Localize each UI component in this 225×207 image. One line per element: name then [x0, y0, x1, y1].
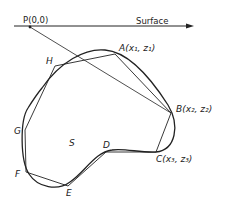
approx-polygon [25, 54, 171, 186]
vertex-E-label: E [66, 189, 72, 198]
body-outline [22, 50, 175, 187]
vertex-C-label: C(x₃, z₃) [156, 155, 192, 164]
vertex-H-label: H [46, 57, 53, 66]
vertex-G-label: G [14, 127, 21, 136]
surface-arrowhead-icon [186, 24, 194, 29]
surface-label: Surface [136, 17, 168, 26]
vertex-F-label: F [15, 170, 20, 179]
vertex-D-label: D [103, 141, 110, 150]
origin-label: P(0,0) [23, 16, 48, 25]
ray-P-to-B [30, 27, 171, 113]
vertex-A-label: A(x₁, z₁) [119, 44, 155, 53]
diagram-canvas: P(0,0) Surface A(x₁, z₁) B(x₂, z₂) C(x₃,… [0, 0, 225, 207]
vertex-B-label: B(x₂, z₂) [176, 105, 212, 114]
body-S-label: S [69, 139, 75, 148]
